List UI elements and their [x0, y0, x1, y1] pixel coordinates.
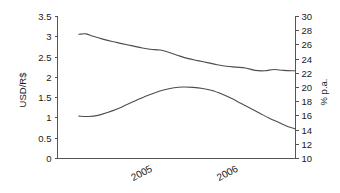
left-tick-label: 3: [46, 31, 51, 42]
left-tick-label: 1: [46, 112, 51, 123]
series-line-1: [79, 34, 296, 71]
right-tick-label: 12: [302, 139, 313, 150]
left-tick-label: 0: [46, 153, 51, 164]
right-tick-label: 14: [302, 125, 313, 136]
left-axis-title: USD/R$: [17, 72, 28, 108]
left-tick-label: 1.5: [38, 92, 51, 103]
right-tick-label: 18: [302, 96, 313, 107]
right-tick-label: 26: [302, 39, 313, 50]
series-group: [79, 34, 296, 129]
right-tick-label: 24: [302, 54, 313, 65]
right-tick-label: 20: [302, 82, 313, 93]
left-axis-ticks: 00.511.522.533.5: [38, 11, 57, 164]
right-tick-label: 16: [302, 110, 313, 121]
left-tick-label: 0.5: [38, 133, 51, 144]
left-tick-label: 2.5: [38, 52, 51, 63]
chart-container: 00.511.522.533.5 1012141618202224262830 …: [0, 0, 340, 193]
left-tick-label: 2: [46, 72, 51, 83]
right-tick-label: 10: [302, 153, 313, 164]
right-axis-title: % p.a.: [318, 79, 329, 106]
right-tick-label: 28: [302, 25, 313, 36]
x-tick-label: 2005: [129, 163, 154, 183]
right-axis-ticks: 1012141618202224262830: [296, 11, 313, 164]
x-axis-ticks: 20052006: [129, 163, 240, 183]
line-chart: 00.511.522.533.5 1012141618202224262830 …: [0, 0, 340, 193]
right-tick-label: 30: [302, 11, 313, 22]
series-line-2: [79, 87, 296, 129]
right-tick-label: 22: [302, 68, 313, 79]
x-tick-label: 2006: [215, 163, 240, 183]
left-tick-label: 3.5: [38, 11, 51, 22]
